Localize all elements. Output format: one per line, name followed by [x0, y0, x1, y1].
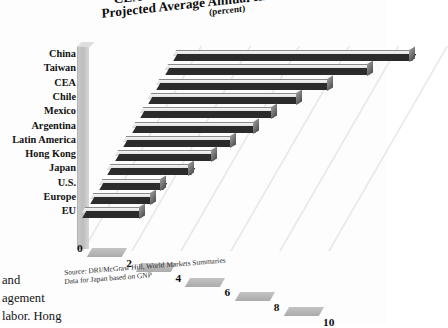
bar-end-cap: [139, 204, 145, 219]
page-body-text-line-3: labor. Hong: [2, 308, 122, 326]
category-label-europe: Europe: [2, 191, 76, 202]
category-label-hong-kong: Hong Kong: [2, 148, 76, 159]
category-label-taiwan: Taiwan: [2, 62, 76, 73]
category-label-row: Taiwan: [0, 62, 76, 77]
bar-japan: [107, 168, 195, 175]
page-body-text-fragment: and agement labor. Hong: [2, 272, 122, 326]
bar-china: [173, 54, 416, 61]
axis-back-wall-top: [77, 42, 95, 47]
page-body-text-line-2: agement: [2, 290, 122, 308]
bar-end-cap: [327, 75, 333, 90]
category-label-chile: Chile: [2, 91, 76, 102]
category-label-japan: Japan: [2, 162, 76, 173]
bar-u-s-: [99, 183, 167, 190]
category-label-argentina: Argentina: [2, 120, 76, 131]
bar-eu: [82, 211, 145, 218]
bar-end-cap: [150, 190, 156, 205]
category-label-row: China: [0, 48, 76, 63]
bar-end-cap: [271, 104, 277, 119]
category-label-row: Hong Kong: [0, 148, 76, 163]
category-label-eu: EU: [2, 205, 76, 216]
bar-end-cap: [367, 61, 373, 76]
bar-cea: [156, 83, 332, 90]
category-label-row: Chile: [0, 91, 76, 106]
bar-taiwan: [165, 68, 373, 75]
category-label-cea: CEA: [2, 77, 76, 88]
category-label-mexico: Mexico: [2, 105, 76, 116]
bar-chile: [148, 97, 302, 104]
axis-floor-segment: [185, 278, 225, 287]
category-label-row: Europe: [0, 191, 76, 206]
chart-units-label: (percent): [63, 0, 391, 34]
category-label-row: Latin America: [0, 134, 76, 149]
category-label-row: EU: [0, 205, 76, 220]
chart-title-line-1: CEA Growth Relative to Other Regions: [62, 0, 391, 12]
bar-end-cap: [409, 47, 415, 62]
category-label-u-s-: U.S.: [2, 177, 76, 188]
axis-floor-segment: [284, 307, 324, 316]
category-label-row: Japan: [0, 162, 76, 177]
plot-area: ChinaTaiwanCEAChileMexicoArgentinaLatin …: [0, 46, 387, 261]
x-tick-10: 10: [323, 316, 334, 328]
chart-title-line-2: Projected Average Annual Increases in GD…: [62, 0, 391, 24]
bar-latin-america: [123, 140, 236, 147]
category-label-row: U.S.: [0, 177, 76, 192]
bar-end-cap: [296, 89, 302, 104]
x-tick-6: 6: [225, 286, 231, 298]
page-body-text-line-1: and: [2, 272, 122, 290]
category-label-china: China: [2, 48, 76, 59]
bar-end-cap: [211, 147, 217, 162]
bar-end-cap: [253, 118, 259, 133]
category-label-row: CEA: [0, 77, 76, 92]
bar-end-cap: [230, 132, 236, 147]
category-label-row: Argentina: [0, 120, 76, 135]
axis-floor-segment: [234, 292, 274, 301]
category-label-row: Mexico: [0, 105, 76, 120]
category-label-latin-america: Latin America: [2, 134, 76, 145]
bar-end-cap: [160, 175, 166, 190]
bar-mexico: [140, 111, 277, 118]
bar-argentina: [132, 126, 259, 133]
axis-floor-segment: [87, 248, 127, 257]
bar-hong-kong: [115, 154, 218, 161]
x-tick-0: 0: [77, 242, 83, 254]
bar-europe: [90, 197, 156, 204]
chart-title-block: CEA Growth Relative to Other Regions Pro…: [62, 0, 391, 34]
x-tick-8: 8: [274, 301, 280, 313]
